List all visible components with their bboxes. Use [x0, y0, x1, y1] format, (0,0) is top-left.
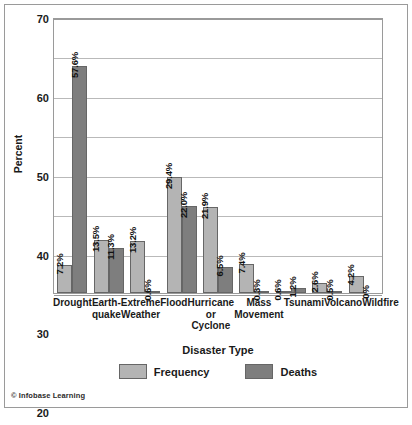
bar-group: 2.6%0.5%	[309, 19, 345, 293]
bar-group: 29.4%22.0%	[163, 19, 199, 293]
y-tick-label-60: 60	[37, 92, 49, 104]
bar-group: 13.2%0.6%	[127, 19, 163, 293]
bar-value-label: 22.0%	[178, 192, 189, 218]
bar-value-label: 13.5%	[90, 226, 101, 252]
plot-area: 010203040506070 7.2%57.6%13.5%11.3%13.2%…	[53, 18, 383, 294]
bar-column: 0.6%	[276, 19, 291, 293]
bar-column: 0%	[364, 19, 379, 293]
y-tick-label-40: 40	[37, 250, 49, 262]
x-tick-label-5: MassMovement	[234, 297, 283, 332]
bar-value-label: 2.6%	[309, 271, 320, 292]
legend-label: Deaths	[280, 366, 317, 378]
x-axis-tick-labels: DroughtEarth-quakeExtremeWeatherFloodHur…	[53, 297, 383, 332]
x-tick-label-1: Earth-quake	[92, 297, 121, 332]
y-axis-title: Percent	[12, 114, 24, 194]
x-tick-label-6: Tsunami	[284, 297, 324, 332]
bar-group: 13.5%11.3%	[90, 19, 126, 293]
bar-group: 7.2%57.6%	[54, 19, 90, 293]
bar-column: 21.9%	[203, 19, 218, 293]
x-tick-label-4: HurricaneorCyclone	[187, 297, 234, 332]
legend-label: Frequency	[154, 366, 210, 378]
bar-value-label: 29.4%	[163, 163, 174, 189]
legend-swatch-deaths	[245, 364, 273, 379]
bar-frequency-4[interactable]	[203, 207, 218, 293]
bar-group: 21.9%6.5%	[200, 19, 236, 293]
bar-value-label: 7.4%	[236, 252, 247, 273]
bar-value-label: 13.2%	[127, 227, 138, 253]
bar-column: 1.2%	[291, 19, 306, 293]
legend-item-frequency[interactable]: Frequency	[119, 364, 210, 379]
x-tick-label-0: Drought	[53, 297, 92, 332]
bar-deaths-0[interactable]	[72, 66, 87, 293]
x-tick-label-7: Volcano	[324, 297, 362, 332]
bar-group: 7.4%0.3%	[236, 19, 272, 293]
bar-value-label: 4.2%	[345, 265, 356, 286]
y-tick-label-30: 30	[37, 328, 49, 340]
bar-column: 13.2%	[130, 19, 145, 293]
chart-legend: FrequencyDeaths	[53, 364, 383, 379]
bar-value-label: 6.5%	[214, 256, 225, 277]
bar-value-label: 1.2%	[287, 277, 298, 298]
x-tick-label-2: ExtremeWeather	[121, 297, 160, 332]
bar-value-label: 7.2%	[54, 253, 65, 274]
legend-swatch-frequency	[119, 364, 147, 379]
bar-value-label: 11.3%	[105, 235, 116, 260]
y-tick-label-50: 50	[37, 171, 49, 183]
bar-group: 0.6%1.2%	[273, 19, 309, 293]
bar-column: 0.3%	[254, 19, 269, 293]
copyright-credit: © Infobase Learning	[11, 391, 85, 400]
y-tick-label-70: 70	[37, 13, 49, 25]
legend-item-deaths[interactable]: Deaths	[245, 364, 317, 379]
y-tick-label-20: 20	[37, 407, 49, 419]
bar-deaths-3[interactable]	[182, 206, 197, 293]
bar-groups: 7.2%57.6%13.5%11.3%13.2%0.6%29.4%22.0%21…	[54, 19, 382, 293]
bar-column: 7.4%	[239, 19, 254, 293]
bar-column: 57.6%	[72, 19, 87, 293]
bar-column: 0.5%	[327, 19, 342, 293]
bar-column: 2.6%	[312, 19, 327, 293]
bar-group: 4.2%0%	[346, 19, 382, 293]
x-tick-label-3: Flood	[160, 297, 187, 332]
chart-figure: Percent 010203040506070 7.2%57.6%13.5%11…	[0, 0, 412, 425]
bar-column: 4.2%	[349, 19, 364, 293]
bar-column: 29.4%	[167, 19, 182, 293]
x-axis-title: Disaster Type	[53, 344, 383, 356]
bar-value-label: 21.9%	[199, 193, 210, 219]
bar-column: 0.6%	[145, 19, 160, 293]
bar-column: 6.5%	[218, 19, 233, 293]
bar-column: 22.0%	[182, 19, 197, 293]
x-tick-label-8: Wildfire	[362, 297, 399, 332]
bar-column: 11.3%	[109, 19, 124, 293]
bar-value-label: 57.6%	[69, 52, 80, 78]
